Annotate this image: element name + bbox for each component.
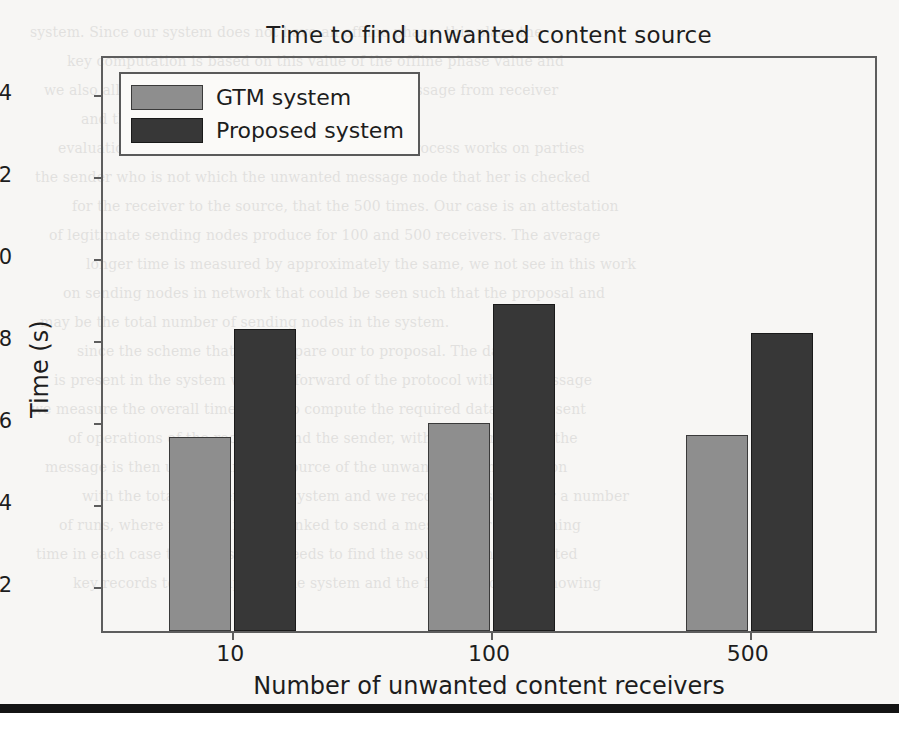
x-axis-tick-mark <box>491 631 493 640</box>
x-axis-tick-mark <box>232 631 234 640</box>
y-axis-tick-label: 14 <box>0 81 12 105</box>
bar-gtm-10 <box>169 437 231 631</box>
y-axis-tick-mark <box>94 177 103 179</box>
legend-item-gtm: GTM system <box>131 81 404 114</box>
y-axis-tick-mark <box>94 587 103 589</box>
page-edge-black-bar <box>0 704 899 713</box>
legend-swatch-gtm-icon <box>131 85 203 110</box>
x-axis-tick-label: 500 <box>727 641 769 666</box>
y-axis-tick-label: 6 <box>0 409 12 433</box>
y-axis-tick-mark <box>94 423 103 425</box>
bar-proposed-500 <box>751 333 813 631</box>
y-axis-tick-label: 12 <box>0 163 12 187</box>
chart-legend: GTM system Proposed system <box>119 72 420 156</box>
legend-swatch-proposed-icon <box>131 118 203 143</box>
y-axis-tick-mark <box>94 505 103 507</box>
x-axis-tick-label: 10 <box>216 641 244 666</box>
scanned-figure-page: Time to find unwanted content source Num… <box>0 0 899 734</box>
y-axis-tick-label: 4 <box>0 491 12 515</box>
y-axis-label: Time (s) <box>26 320 54 418</box>
page-bottom-margin <box>0 713 899 734</box>
legend-label-gtm: GTM system <box>216 85 351 110</box>
y-axis-tick-mark <box>94 95 103 97</box>
bar-chart-figure: Time to find unwanted content source Num… <box>0 0 899 700</box>
y-axis-tick-mark <box>94 341 103 343</box>
legend-label-proposed: Proposed system <box>216 118 404 143</box>
x-axis-tick-mark <box>750 631 752 640</box>
x-axis-label: Number of unwanted content receivers <box>101 672 877 700</box>
bar-proposed-10 <box>234 329 296 631</box>
bar-gtm-100 <box>428 423 490 631</box>
y-axis-tick-mark <box>94 259 103 261</box>
legend-item-proposed: Proposed system <box>131 114 404 147</box>
x-axis-tick-label: 100 <box>468 641 510 666</box>
bar-proposed-100 <box>493 304 555 631</box>
y-axis-tick-label: 2 <box>0 573 12 597</box>
chart-title: Time to find unwanted content source <box>101 22 877 48</box>
bar-gtm-500 <box>686 435 748 631</box>
y-axis-tick-label: 10 <box>0 245 12 269</box>
y-axis-tick-label: 8 <box>0 327 12 351</box>
